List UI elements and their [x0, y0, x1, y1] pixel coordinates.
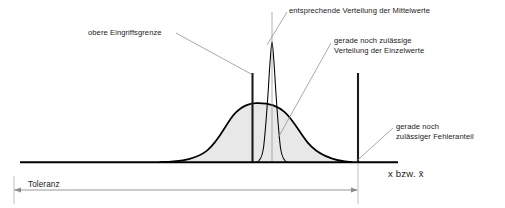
- label-verteilung-einzelwerte-line2: Verteilung der Einzelwerte: [334, 46, 424, 56]
- label-verteilung-mittelwerte: entsprechende Verteilung der Mittelwerte: [289, 6, 430, 16]
- label-fehleranteil-line1: gerade noch: [396, 122, 474, 132]
- label-toleranz: Toleranz: [28, 180, 60, 190]
- label-verteilung-einzelwerte: gerade noch zulässige Verteilung der Ein…: [334, 36, 424, 55]
- leader-line-fehleranteil: [356, 128, 393, 162]
- leader-line-eingriffsgrenze: [176, 33, 251, 74]
- label-x-axis: x bzw. x̄: [388, 169, 424, 179]
- label-fehleranteil-line2: zulässiger Fehleranteil: [396, 132, 474, 142]
- leader-line-mittelwerte: [267, 12, 287, 45]
- leader-line-einzelwerte: [278, 43, 331, 138]
- tolerance-arrow-head-right: [351, 188, 358, 193]
- tolerance-arrow-head-left: [14, 188, 21, 193]
- diagram-figure: obere Eingriffsgrenze entsprechende Vert…: [0, 0, 505, 208]
- diagram-canvas: [0, 0, 505, 208]
- curve-einzelwerte-fill: [162, 103, 350, 162]
- label-verteilung-einzelwerte-line1: gerade noch zulässige: [334, 36, 424, 46]
- label-fehleranteil: gerade noch zulässiger Fehleranteil: [396, 122, 474, 141]
- label-obere-eingriffsgrenze: obere Eingriffsgrenze: [88, 28, 162, 38]
